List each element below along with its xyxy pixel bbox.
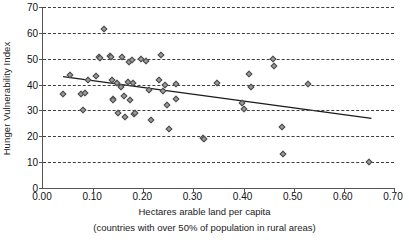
y-tick-label: 40 xyxy=(14,79,42,90)
data-point xyxy=(158,51,165,58)
data-point xyxy=(172,81,179,88)
data-point xyxy=(145,86,152,93)
data-point xyxy=(60,91,67,98)
x-axis-tick-labels: 0.000.100.200.300.400.500.600.70 xyxy=(42,191,393,205)
x-tick-label: 0.30 xyxy=(183,191,202,202)
y-tick-label: 70 xyxy=(14,2,42,13)
data-point xyxy=(110,96,117,103)
data-point xyxy=(365,159,372,166)
x-tick-label: 0.60 xyxy=(333,191,352,202)
y-tick-label: 10 xyxy=(14,157,42,168)
y-axis-title-text: Hunger Vulnerability Index xyxy=(2,41,13,155)
x-tick-label: 0.50 xyxy=(283,191,302,202)
data-point xyxy=(66,71,73,78)
y-tick-label: 20 xyxy=(14,131,42,142)
y-tick-mark xyxy=(39,188,43,189)
x-tick-label: 0.20 xyxy=(133,191,152,202)
x-tick-label: 0.10 xyxy=(82,191,101,202)
data-point xyxy=(97,54,104,61)
gridline-horizontal xyxy=(43,110,394,111)
data-point xyxy=(160,87,167,94)
scatter-chart-figure: Hunger Vulnerability Index 0102030405060… xyxy=(0,0,409,243)
x-axis-title: Hectares arable land per capita xyxy=(0,206,409,217)
x-tick-label: 0.40 xyxy=(233,191,252,202)
data-point xyxy=(126,96,133,103)
data-point xyxy=(121,114,128,121)
y-tick-label: 30 xyxy=(14,105,42,116)
gridline-horizontal xyxy=(43,162,394,163)
gridline-horizontal xyxy=(43,59,394,60)
y-tick-label: 50 xyxy=(14,53,42,64)
data-point xyxy=(278,123,285,130)
data-point xyxy=(304,81,311,88)
x-tick-label: 0.70 xyxy=(383,191,402,202)
y-axis-title: Hunger Vulnerability Index xyxy=(0,0,14,196)
x-tick-label: 0.00 xyxy=(32,191,51,202)
data-point xyxy=(156,76,163,83)
data-point xyxy=(84,76,91,83)
gridline-horizontal xyxy=(43,136,394,137)
data-point xyxy=(148,116,155,123)
data-point xyxy=(173,95,180,102)
trendline-svg xyxy=(43,7,394,188)
data-point xyxy=(280,150,287,157)
y-tick-label: 60 xyxy=(14,27,42,38)
y-axis-tick-labels: 010203040506070 xyxy=(14,0,42,196)
gridline-horizontal xyxy=(43,7,394,8)
plot-area xyxy=(42,7,394,189)
data-point xyxy=(165,125,172,132)
x-axis-subtitle: (countries with over 50% of population i… xyxy=(0,222,409,233)
gridline-horizontal xyxy=(43,33,394,34)
data-point xyxy=(101,25,108,32)
data-point xyxy=(164,102,171,109)
data-point xyxy=(271,63,278,70)
data-point xyxy=(245,70,252,77)
data-point xyxy=(92,73,99,80)
data-point xyxy=(80,107,87,114)
